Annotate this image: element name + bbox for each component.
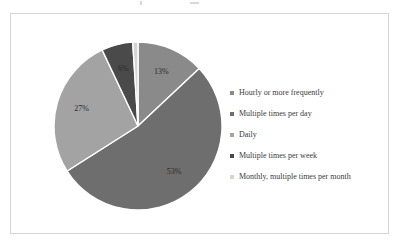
legend-item-label: Monthly, multiple times per month — [239, 173, 351, 181]
legend-item-label: Hourly or more frequently — [239, 89, 324, 97]
pie-slice-data-label: 27% — [74, 104, 89, 113]
legend-item-daily[interactable]: Daily — [230, 124, 390, 145]
pie-svg: 13%53%27%6%1% — [53, 41, 223, 211]
chart-frame: 13%53%27%6%1% Hourly or more frequently … — [10, 13, 389, 234]
crop-speck — [190, 2, 199, 4]
legend-item-monthly-multiple-times-per-month[interactable]: Monthly, multiple times per month — [230, 166, 390, 187]
pie-chart: 13%53%27%6%1% — [53, 41, 223, 211]
chart-legend: Hourly or more frequently Multiple times… — [230, 82, 390, 187]
pie-slice-data-label: 13% — [154, 67, 169, 76]
pie-slice-data-label: 53% — [167, 167, 182, 176]
legend-swatch-icon — [230, 175, 234, 179]
plot-area: 13%53%27%6%1% Hourly or more frequently … — [11, 14, 390, 235]
legend-swatch-icon — [230, 112, 234, 116]
legend-swatch-icon — [230, 91, 234, 95]
legend-swatch-icon — [230, 154, 234, 158]
pie-slice-data-label: 6% — [118, 64, 129, 73]
legend-item-hourly-or-more-frequently[interactable]: Hourly or more frequently — [230, 82, 390, 103]
legend-item-label: Multiple times per day — [239, 110, 312, 118]
legend-swatch-icon — [230, 133, 234, 137]
legend-item-multiple-times-per-day[interactable]: Multiple times per day — [230, 103, 390, 124]
crop-speck — [140, 1, 142, 5]
cropped-text-remnant-strip — [0, 0, 399, 10]
legend-item-label: Daily — [239, 131, 257, 139]
legend-item-label: Multiple times per week — [239, 152, 317, 160]
legend-item-multiple-times-per-week[interactable]: Multiple times per week — [230, 145, 390, 166]
